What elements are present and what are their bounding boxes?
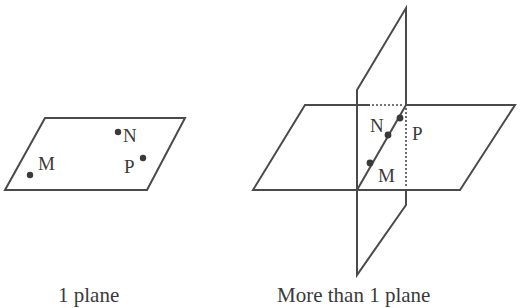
- label-p: P: [124, 156, 135, 177]
- vertical-plane-top: [357, 8, 406, 190]
- plane-parallelogram: [5, 118, 185, 190]
- point-p-dot: [140, 155, 146, 161]
- label-m: M: [38, 153, 55, 174]
- point-p-dot: [385, 132, 392, 139]
- label-n: N: [123, 125, 137, 146]
- label-p: P: [412, 123, 423, 144]
- label-m: M: [378, 165, 395, 186]
- point-m-dot: [27, 172, 33, 178]
- caption-one-plane: 1 plane: [58, 283, 119, 308]
- horizontal-plane-top-left: [253, 105, 370, 190]
- caption-more-than-one-plane: More than 1 plane: [277, 283, 430, 308]
- label-n: N: [370, 115, 384, 136]
- vertical-plane-bottom: [357, 190, 406, 275]
- point-m-dot: [367, 160, 374, 167]
- point-n-dot: [115, 129, 121, 135]
- point-n-dot: [397, 115, 404, 122]
- figure-two-planes: [253, 8, 515, 275]
- figure-one-plane: [5, 118, 185, 190]
